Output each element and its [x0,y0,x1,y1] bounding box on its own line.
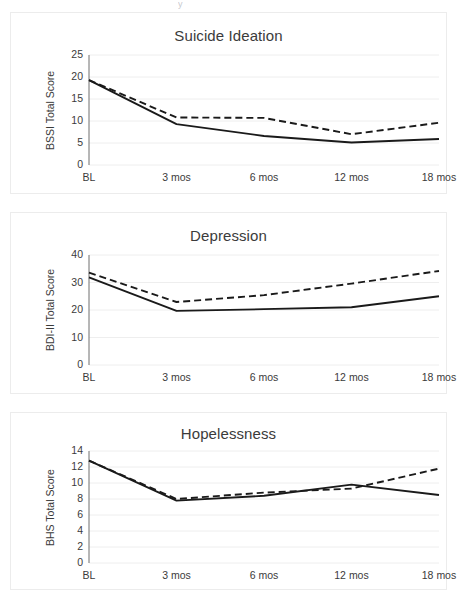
x-tick-label: 18 mos [422,171,456,183]
x-tick-label: 12 mos [334,371,368,383]
chart-panel-hopelessness: Hopelessness 02468101214BL3 mos6 mos12 m… [10,412,447,590]
y-tick-label: 12 [57,460,83,472]
y-tick-label: 5 [57,136,83,148]
y-tick-label: 0 [57,158,83,170]
series-line-dashed [89,461,439,499]
y-tick-label: 14 [57,444,83,456]
x-tick-label: 6 mos [250,171,279,183]
y-tick-label: 6 [57,508,83,520]
x-tick-label: 18 mos [422,371,456,383]
plot-area: 02468101214BL3 mos6 mos12 mos18 mosBHS T… [11,413,446,589]
y-tick-label: 30 [57,276,83,288]
y-tick-label: 0 [57,556,83,568]
y-tick-label: 20 [57,303,83,315]
x-tick-label: 18 mos [422,569,456,581]
y-tick-label: 40 [57,248,83,260]
y-tick-label: 10 [57,476,83,488]
y-tick-label: 0 [57,358,83,370]
chart-panel-depression: Depression 010203040BL3 mos6 mos12 mos18… [10,212,447,394]
figure-container: y Suicide Ideation 0510152025BL3 mos6 mo… [0,0,457,591]
chart-panel-suicide-ideation: Suicide Ideation 0510152025BL3 mos6 mos1… [10,12,447,194]
y-tick-label: 20 [57,70,83,82]
plot-area: 010203040BL3 mos6 mos12 mos18 mosBDI-II … [11,213,446,393]
x-tick-label: 6 mos [250,569,279,581]
x-tick-label: 6 mos [250,371,279,383]
x-tick-label: 3 mos [162,569,191,581]
series-line-solid [89,80,439,142]
x-tick-label: BL [83,171,96,183]
x-tick-label: 12 mos [334,569,368,581]
top-cropped-text-artifact: y [178,0,298,9]
y-axis-title: BSSI Total Score [44,70,56,149]
plot-area: 0510152025BL3 mos6 mos12 mos18 mosBSSI T… [11,13,446,193]
x-tick-label: BL [83,371,96,383]
y-tick-label: 10 [57,114,83,126]
x-tick-label: 12 mos [334,171,368,183]
y-axis-title: BHS Total Score [44,469,56,546]
y-tick-label: 4 [57,524,83,536]
y-tick-label: 25 [57,48,83,60]
y-tick-label: 8 [57,492,83,504]
x-tick-label: 3 mos [162,171,191,183]
y-tick-label: 10 [57,331,83,343]
y-axis-title: BDI-II Total Score [44,269,56,351]
x-tick-label: 3 mos [162,371,191,383]
y-tick-label: 2 [57,540,83,552]
y-tick-label: 15 [57,92,83,104]
x-tick-label: BL [83,569,96,581]
